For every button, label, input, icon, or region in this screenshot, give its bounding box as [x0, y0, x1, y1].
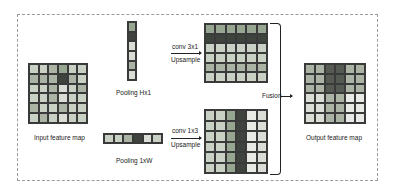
grid-cell [143, 134, 153, 143]
conv-3x1-label: conv 3x1 [172, 43, 198, 50]
grid-cell [246, 53, 256, 63]
grid-cell [315, 113, 325, 123]
grid-cell [355, 74, 365, 84]
grid-cell [205, 121, 215, 132]
grid-cell [128, 61, 136, 71]
grid-cell [128, 70, 136, 80]
grid-cell [205, 43, 215, 53]
grid-cell [257, 63, 267, 73]
grid-cell [226, 163, 236, 174]
grid-cell [325, 74, 335, 84]
grid-cell [226, 43, 236, 53]
grid-cell [335, 84, 345, 94]
grid-cell [315, 64, 325, 74]
grid-cell [246, 72, 256, 82]
grid-cell [305, 84, 315, 94]
grid-cell [128, 22, 136, 32]
grid-cell [215, 152, 225, 163]
output-feature-map-grid [304, 63, 366, 124]
grid-cell [246, 63, 256, 73]
conv-1x3-label: conv 1x3 [172, 127, 198, 134]
grid-cell [77, 93, 87, 103]
grid-cell [305, 74, 315, 84]
grid-cell [355, 84, 365, 94]
grid-cell [345, 64, 355, 74]
grid-cell [325, 84, 335, 94]
grid-cell [29, 74, 39, 84]
grid-cell [29, 93, 39, 103]
grid-cell [39, 64, 49, 74]
grid-cell [257, 34, 267, 44]
grid-cell [236, 131, 246, 142]
grid-cell [39, 84, 49, 94]
grid-cell [205, 142, 215, 153]
grid-cell [246, 34, 256, 44]
grid-cell [205, 131, 215, 142]
grid-cell [236, 43, 246, 53]
grid-cell [215, 110, 225, 121]
grid-cell [257, 72, 267, 82]
grid-cell [257, 163, 267, 174]
grid-cell [128, 32, 136, 42]
pooling-hx1-label: Pooling Hx1 [116, 89, 151, 96]
grid-cell [77, 64, 87, 74]
grid-cell [39, 74, 49, 84]
grid-cell [335, 113, 345, 123]
grid-cell [355, 103, 365, 113]
grid-cell [335, 93, 345, 103]
grid-cell [68, 64, 78, 74]
grid-cell [335, 64, 345, 74]
grid-cell [68, 84, 78, 94]
grid-cell [58, 113, 68, 123]
grid-cell [77, 74, 87, 84]
grid-cell [257, 24, 267, 34]
grid-cell [226, 152, 236, 163]
grid-cell [39, 93, 49, 103]
output-feature-map-label: Output feature map [306, 134, 362, 141]
grid-cell [236, 63, 246, 73]
grid-cell [48, 74, 58, 84]
upsample-bottom-label: Upsample [171, 141, 200, 148]
grid-cell [205, 72, 215, 82]
grid-cell [305, 93, 315, 103]
grid-cell [215, 163, 225, 174]
grid-cell [236, 53, 246, 63]
conv-1x3-output-grid [204, 109, 268, 174]
grid-cell [77, 113, 87, 123]
grid-cell [257, 121, 267, 132]
grid-cell [226, 24, 236, 34]
grid-cell [205, 24, 215, 34]
grid-cell [236, 142, 246, 153]
grid-cell [205, 53, 215, 63]
grid-cell [345, 84, 355, 94]
grid-cell [58, 93, 68, 103]
grid-cell [226, 131, 236, 142]
grid-cell [77, 84, 87, 94]
grid-cell [345, 113, 355, 123]
grid-cell [246, 110, 256, 121]
conv-3x1-output-grid [204, 23, 268, 83]
grid-cell [128, 41, 136, 51]
upsample-top-label: Upsample [171, 56, 200, 63]
grid-cell [246, 152, 256, 163]
grid-cell [335, 74, 345, 84]
grid-cell [29, 64, 39, 74]
grid-cell [68, 113, 78, 123]
grid-cell [104, 134, 114, 143]
grid-cell [226, 142, 236, 153]
grid-cell [315, 84, 325, 94]
grid-cell [215, 131, 225, 142]
grid-cell [215, 142, 225, 153]
grid-cell [48, 64, 58, 74]
grid-cell [246, 131, 256, 142]
grid-cell [257, 152, 267, 163]
fusion-arrow [280, 96, 292, 97]
grid-cell [68, 93, 78, 103]
grid-cell [315, 93, 325, 103]
grid-cell [215, 63, 225, 73]
grid-cell [305, 64, 315, 74]
grid-cell [77, 103, 87, 113]
fusion-label: Fusion [262, 92, 282, 99]
grid-cell [236, 152, 246, 163]
grid-cell [325, 103, 335, 113]
